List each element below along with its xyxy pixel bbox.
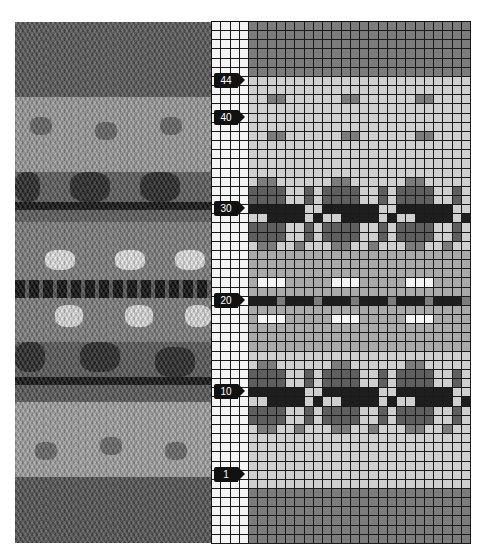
chart-cell	[462, 59, 471, 68]
chart-cell	[462, 22, 471, 31]
chart-cell	[314, 104, 323, 113]
chart-cell	[221, 132, 230, 141]
chart-cell	[268, 388, 277, 397]
chart-cell	[286, 260, 295, 269]
chart-cell	[434, 507, 443, 516]
chart-cell	[240, 352, 249, 361]
chart-cell	[406, 132, 415, 141]
chart-cell	[425, 471, 434, 480]
chart-cell	[369, 150, 378, 159]
photo-motif	[160, 117, 182, 135]
chart-cell	[416, 214, 425, 223]
chart-cell	[221, 535, 230, 544]
chart-cell	[249, 123, 258, 132]
chart-cell	[314, 31, 323, 40]
chart-cell	[453, 443, 462, 452]
chart-cell	[342, 77, 351, 86]
chart-cell	[231, 242, 240, 251]
chart-cell	[305, 434, 314, 443]
chart-cell	[323, 397, 332, 406]
chart-cell	[351, 22, 360, 31]
chart-cell	[379, 462, 388, 471]
chart-cell	[443, 59, 452, 68]
chart-cell	[314, 141, 323, 150]
chart-cell	[360, 260, 369, 269]
chart-cell	[406, 187, 415, 196]
chart-cell	[443, 535, 452, 544]
chart-cell	[443, 178, 452, 187]
chart-cell	[379, 233, 388, 242]
chart-cell	[416, 425, 425, 434]
chart-cell	[425, 306, 434, 315]
chart-cell	[453, 141, 462, 150]
chart-cell	[277, 379, 286, 388]
chart-cell	[240, 86, 249, 95]
chart-cell	[277, 169, 286, 178]
chart-cell	[268, 425, 277, 434]
chart-cell	[443, 516, 452, 525]
chart-cell	[342, 31, 351, 40]
chart-cell	[249, 251, 258, 260]
chart-cell	[462, 306, 471, 315]
chart-cell	[360, 498, 369, 507]
chart-cell	[258, 68, 267, 77]
chart-cell	[249, 480, 258, 489]
chart-cell	[360, 397, 369, 406]
chart-cell	[286, 361, 295, 370]
chart-cell	[406, 223, 415, 232]
chart-cell	[425, 141, 434, 150]
chart-cell	[323, 187, 332, 196]
chart-cell	[443, 370, 452, 379]
chart-cell	[369, 86, 378, 95]
chart-cell	[240, 416, 249, 425]
chart-cell	[305, 251, 314, 260]
chart-cell	[286, 535, 295, 544]
chart-cell	[462, 159, 471, 168]
chart-cell	[360, 352, 369, 361]
chart-cell	[434, 242, 443, 251]
chart-cell	[295, 260, 304, 269]
chart-cell	[268, 498, 277, 507]
chart-cell	[212, 223, 221, 232]
chart-cell	[397, 516, 406, 525]
chart-cell	[388, 251, 397, 260]
chart-cell	[397, 260, 406, 269]
chart-cell	[462, 443, 471, 452]
chart-cell	[397, 114, 406, 123]
chart-cell	[342, 462, 351, 471]
chart-cell	[314, 306, 323, 315]
chart-cell	[332, 159, 341, 168]
chart-cell	[397, 416, 406, 425]
chart-cell	[305, 388, 314, 397]
chart-cell	[221, 342, 230, 351]
chart-cell	[240, 407, 249, 416]
chart-cell	[462, 324, 471, 333]
chart-cell	[369, 169, 378, 178]
chart-cell	[443, 159, 452, 168]
chart-cell	[258, 251, 267, 260]
chart-cell	[360, 196, 369, 205]
chart-cell	[416, 150, 425, 159]
photo-motif	[165, 442, 187, 460]
chart-cell	[212, 535, 221, 544]
chart-cell	[305, 260, 314, 269]
chart-cell	[379, 132, 388, 141]
chart-cell	[379, 49, 388, 58]
chart-cell	[212, 352, 221, 361]
chart-cell	[416, 178, 425, 187]
chart-cell	[462, 471, 471, 480]
chart-cell	[369, 342, 378, 351]
chart-cell	[351, 187, 360, 196]
chart-cell	[295, 361, 304, 370]
chart-cell	[240, 132, 249, 141]
chart-cell	[453, 407, 462, 416]
chart-cell	[388, 516, 397, 525]
chart-cell	[443, 480, 452, 489]
chart-cell	[342, 407, 351, 416]
chart-cell	[295, 498, 304, 507]
chart-cell	[268, 159, 277, 168]
photo-white-motif	[125, 305, 153, 327]
chart-cell	[249, 187, 258, 196]
chart-cell	[277, 288, 286, 297]
chart-cell	[388, 49, 397, 58]
